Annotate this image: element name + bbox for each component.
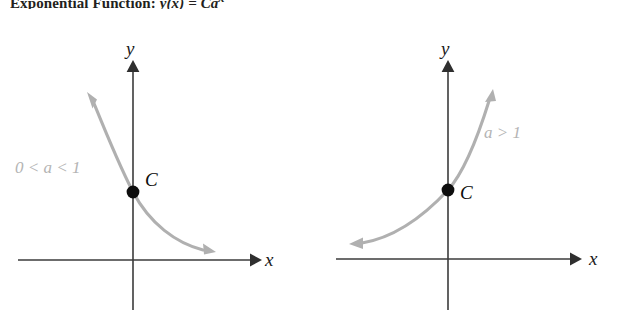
panel-growth-curve-arrowhead-up [485,89,496,102]
panel-growth-curve-path [362,101,489,243]
panel-decay-y-axis-arrowhead [127,60,140,72]
exponential-function-figure: Exponential Function: y(x) = Cax [0,0,621,334]
figure-heading: Exponential Function: y(x) = Cax [10,0,430,9]
panel-decay-x-axis [18,254,262,267]
panel-decay-x-axis-arrowhead [250,254,262,267]
panel-growth-condition-label: a > 1 [484,123,521,142]
panel-growth-x-axis [336,253,582,266]
panel-growth-curve-arrowhead-left [349,238,363,250]
panel-growth-curve [349,89,496,249]
panel-decay-y-axis-label: y [124,38,135,59]
panel-decay-x-axis-label: x [264,249,274,270]
figure-heading-text: Exponential Function: [10,0,160,9]
panel-growth: C x y a > 1 [336,38,598,310]
panel-growth-x-axis-arrowhead [570,253,582,266]
figure-heading-exponent: x [218,0,224,5]
panel-decay-point-c-dot [127,186,140,199]
panel-decay-condition-label: 0 < a < 1 [15,158,80,177]
figure-canvas: C x y 0 < a < 1 [0,0,621,334]
figure-heading-equation: y(x) = Ca [160,0,219,9]
panel-growth-y-axis-arrowhead [442,60,455,72]
panel-growth-y-axis-label: y [439,38,450,59]
panel-growth-point-c-label: C [460,182,473,203]
panel-growth-x-axis-label: x [588,248,598,269]
panel-decay: C x y 0 < a < 1 [15,38,274,310]
panel-growth-point-c-dot [442,184,455,197]
panel-decay-curve-arrowhead-down [203,244,216,255]
panel-decay-point-c-label: C [145,169,158,190]
